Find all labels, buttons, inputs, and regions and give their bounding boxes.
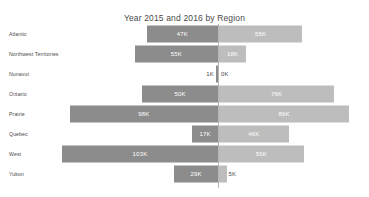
bar-value-2015-atlantic: 47K [147,31,218,37]
bar-value-2015-yukon: 29K [174,171,218,177]
bar-value-2016-ontario: 76K [219,91,334,97]
bar-value-2016-yukon: 5K [229,171,245,177]
bar-value-2015-nunavut: 1K [198,71,214,77]
bar-value-2016-nunavut: 0K [221,71,237,77]
bar-value-2016-northwest-territories: 18K [219,51,246,57]
category-label-yukon: Yukon [9,171,24,177]
chart-row: Northwest Territories55K18K [0,44,369,64]
category-label-prairie: Prairie [9,111,25,117]
bar-2015-nunavut[interactable] [216,66,218,83]
bar-value-2015-quebec: 17K [192,131,218,137]
bar-value-2016-quebec: 46K [219,131,289,137]
category-label-northwest-territories: Northwest Territories [9,51,59,57]
chart-title: Year 2015 and 2016 by Region [0,13,369,23]
chart-row: Nunavut1K0K [0,64,369,84]
bar-value-2016-prairie: 86K [219,111,349,117]
bar-value-2016-west: 56K [219,151,304,157]
category-label-atlantic: Atlantic [9,31,27,37]
bar-value-2015-northwest-territories: 55K [135,51,218,57]
chart-plot-area: Atlantic47K55KNorthwest Territories55K18… [0,24,369,192]
chart-row: Ontario50K76K [0,84,369,104]
bar-2016-yukon[interactable] [219,166,227,183]
bar-value-2015-west: 103K [62,151,218,157]
bar-value-2015-prairie: 98K [70,111,218,117]
bar-value-2016-atlantic: 55K [219,31,302,37]
category-label-quebec: Quebec [9,131,28,137]
category-label-west: West [9,151,21,157]
chart-row: Atlantic47K55K [0,24,369,44]
bar-value-2015-ontario: 50K [142,91,218,97]
chart-row: Yukon29K5K [0,164,369,184]
chart-row: West103K56K [0,144,369,164]
diverging-bar-chart: Year 2015 and 2016 by Region Atlantic47K… [0,0,369,197]
category-label-nunavut: Nunavut [9,71,29,77]
category-label-ontario: Ontario [9,91,27,97]
chart-row: Quebec17K46K [0,124,369,144]
chart-row: Prairie98K86K [0,104,369,124]
